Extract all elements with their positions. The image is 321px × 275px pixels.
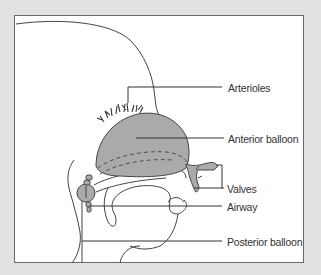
label-airway: Airway (227, 201, 257, 213)
jaw (130, 214, 178, 249)
label-anterior-balloon: Anterior balloon (228, 133, 298, 145)
leader-arterioles (128, 87, 222, 103)
label-posterior-balloon: Posterior balloon (227, 236, 302, 248)
label-arterioles: Arterioles (228, 82, 270, 94)
palate-lower (96, 178, 166, 192)
anterior-balloon (96, 113, 189, 177)
label-valves: Valves (227, 183, 257, 195)
neck-line (68, 160, 80, 263)
